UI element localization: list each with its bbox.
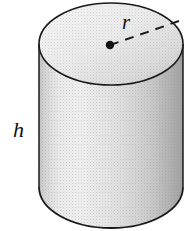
height-label: h [13, 119, 24, 141]
cylinder-illustration [0, 0, 192, 231]
radius-label: r [122, 12, 130, 33]
cylinder-figure: r h [0, 0, 192, 231]
center-point-dot [106, 41, 114, 49]
